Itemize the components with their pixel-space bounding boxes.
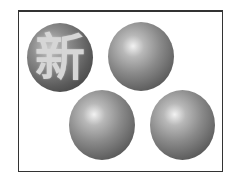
sphere-plain-top-right bbox=[108, 22, 174, 91]
sphere-plain-bottom-right bbox=[150, 90, 215, 160]
sphere-plain-bottom-left bbox=[69, 90, 135, 160]
character-xin: 新 bbox=[27, 23, 93, 92]
sphere-with-character: 新 bbox=[27, 23, 93, 92]
